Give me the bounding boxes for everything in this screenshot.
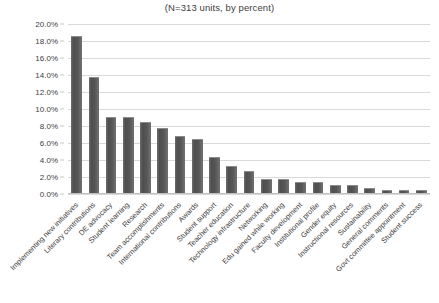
y-axis-tick-label: 10.0% <box>35 105 58 114</box>
bar[interactable] <box>157 128 168 193</box>
bar[interactable] <box>89 77 100 193</box>
bar[interactable] <box>261 179 272 193</box>
bar[interactable] <box>140 122 151 193</box>
y-axis-tick-mark <box>60 143 64 144</box>
y-axis-tick-mark <box>60 126 64 127</box>
y-axis-tick-mark <box>60 177 64 178</box>
bar[interactable] <box>330 185 341 194</box>
y-axis-tick-label: 6.0% <box>40 139 58 148</box>
bar[interactable] <box>347 185 358 194</box>
bar[interactable] <box>71 36 82 193</box>
y-axis: 0.0%2.0%4.0%6.0%8.0%10.0%12.0%14.0%16.0%… <box>0 24 64 194</box>
y-axis-tick-label: 4.0% <box>40 156 58 165</box>
y-axis-tick-mark <box>60 24 64 25</box>
y-axis-tick-mark <box>60 109 64 110</box>
y-axis-tick-label: 2.0% <box>40 173 58 182</box>
bars-layer <box>68 24 430 194</box>
bar[interactable] <box>192 139 203 193</box>
y-axis-tick-mark <box>60 92 64 93</box>
gridline <box>68 194 430 195</box>
x-axis-line <box>68 193 430 194</box>
bar[interactable] <box>106 117 117 194</box>
bar[interactable] <box>226 166 237 193</box>
y-axis-tick-mark <box>60 160 64 161</box>
bar[interactable] <box>278 179 289 193</box>
chart-title: (N=313 units, by percent) <box>0 2 439 13</box>
bar-chart: (N=313 units, by percent) 0.0%2.0%4.0%6.… <box>0 0 439 303</box>
y-axis-tick-mark <box>60 41 64 42</box>
bar[interactable] <box>209 157 220 193</box>
y-axis-tick-label: 0.0% <box>40 190 58 199</box>
bar[interactable] <box>175 136 186 193</box>
y-axis-tick-mark <box>60 75 64 76</box>
y-axis-tick-label: 18.0% <box>35 37 58 46</box>
y-axis-tick-label: 16.0% <box>35 54 58 63</box>
y-axis-tick-label: 20.0% <box>35 20 58 29</box>
y-axis-tick-label: 14.0% <box>35 71 58 80</box>
y-axis-tick-mark <box>60 194 64 195</box>
bar[interactable] <box>313 182 324 193</box>
plot-area <box>68 24 430 194</box>
bar[interactable] <box>295 182 306 193</box>
y-axis-tick-mark <box>60 58 64 59</box>
bar[interactable] <box>123 117 134 194</box>
y-axis-tick-label: 8.0% <box>40 122 58 131</box>
y-axis-tick-label: 12.0% <box>35 88 58 97</box>
bar[interactable] <box>244 171 255 193</box>
